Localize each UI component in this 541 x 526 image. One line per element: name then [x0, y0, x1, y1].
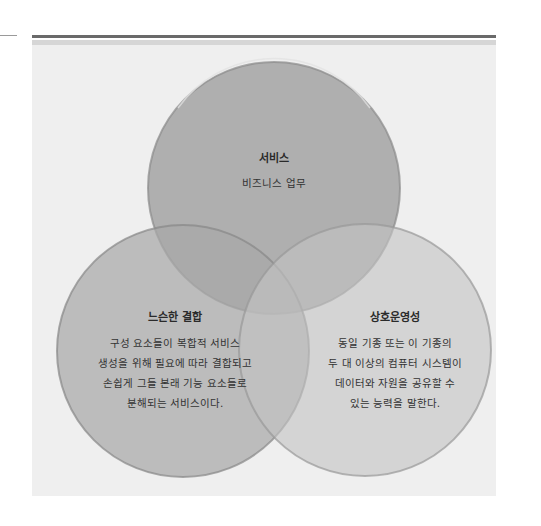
- service-desc: 비즈니스 업무: [194, 173, 354, 193]
- loose-coupling-line: 손쉽게 그들 본래 기능 요소들로: [70, 373, 280, 393]
- interoperability-line: 동일 기종 또는 이 기종의: [290, 333, 500, 353]
- loose-coupling-line: 분해되는 서비스이다.: [70, 393, 280, 413]
- service-label: 서비스 비즈니스 업무: [194, 152, 354, 193]
- loose-coupling-label: 느슨한 결합 구성 요소들이 복합적 서비스 생성을 위해 필요에 따라 결합되…: [70, 311, 280, 413]
- interoperability-label: 상호운영성 동일 기종 또는 이 기종의 두 대 이상의 컴퓨터 시스템이 데이…: [290, 311, 500, 413]
- loose-coupling-line: 구성 요소들이 복합적 서비스: [70, 333, 280, 353]
- venn-diagram: [0, 0, 541, 526]
- interoperability-line: 두 대 이상의 컴퓨터 시스템이: [290, 353, 500, 373]
- interoperability-title: 상호운영성: [290, 311, 500, 325]
- interoperability-line: 데이터와 자원을 공유할 수: [290, 373, 500, 393]
- loose-coupling-title: 느슨한 결합: [70, 311, 280, 325]
- interoperability-line: 있는 능력을 말한다.: [290, 393, 500, 413]
- service-title: 서비스: [194, 152, 354, 166]
- loose-coupling-line: 생성을 위해 필요에 따라 결합되고: [70, 353, 280, 373]
